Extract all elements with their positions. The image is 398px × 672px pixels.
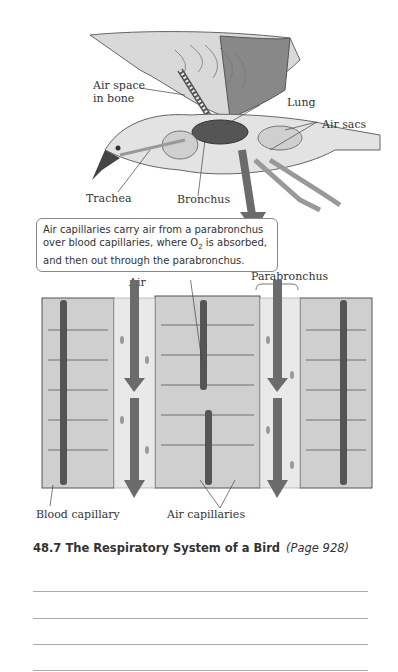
answer-line[interactable] <box>33 618 368 619</box>
label-bronchus: Bronchus <box>177 193 230 206</box>
label-air-capillaries: Air capillaries <box>167 508 245 521</box>
answer-line[interactable] <box>33 670 368 671</box>
bird-illustration <box>80 0 398 220</box>
label-air-space-in-bone: Air space in bone <box>93 79 145 105</box>
label-air-sacs: Air sacs <box>322 118 366 131</box>
answer-line[interactable] <box>33 644 368 645</box>
label-lung: Lung <box>287 96 316 109</box>
answer-line[interactable] <box>33 591 368 592</box>
page-reference: (Page 928) <box>286 541 349 555</box>
parabronchi-tissue-illustration <box>30 280 398 525</box>
label-blood-capillary: Blood capillary <box>36 508 120 521</box>
label-trachea: Trachea <box>86 192 131 205</box>
figure-caption: 48.7 The Respiratory System of a Bird(Pa… <box>33 541 349 555</box>
callout-box: Air capillaries carry air from a parabro… <box>36 218 278 272</box>
